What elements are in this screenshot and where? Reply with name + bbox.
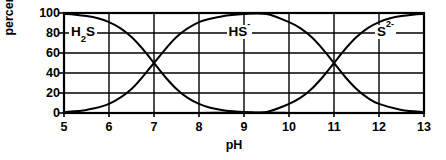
x-tick-label: 5 [51,120,77,134]
species-label-S2-: S2- [375,25,396,39]
species-label-HS-: HS- [227,25,253,39]
x-tick-label: 8 [186,120,212,134]
x-tick-label: 7 [141,120,167,134]
x-tick-label: 13 [411,120,437,134]
x-tick-label: 6 [96,120,122,134]
sulfide-speciation-chart: percent 020406080100 5678910111213 H2SHS… [0,0,446,160]
chart-screenshot: percent 020406080100 5678910111213 H2SHS… [0,0,446,160]
x-tick-label: 10 [276,120,302,134]
x-tick-label: 12 [366,120,392,134]
x-tick-label: 11 [321,120,347,134]
x-axis-title: pH [204,138,264,152]
x-tick-label: 9 [231,120,257,134]
species-label-H2S: H2S [69,25,97,39]
